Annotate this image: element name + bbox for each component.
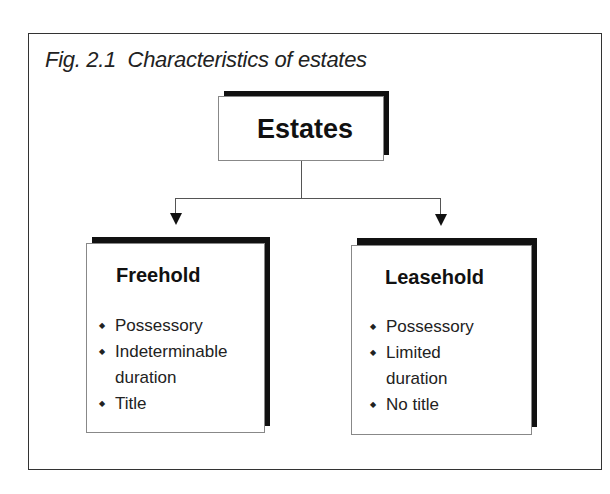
- leasehold-bullet-limited: Limited: [370, 340, 474, 366]
- leasehold-bullet-no-title: No title: [370, 392, 474, 418]
- arrow-down-icon: [435, 214, 447, 226]
- connector-horizontal: [175, 198, 441, 199]
- freehold-box: Freehold Possessory Indeterminable durat…: [86, 243, 265, 433]
- freehold-bullet-indeterminable: Indeterminable: [99, 339, 227, 365]
- freehold-label: Freehold: [116, 264, 200, 287]
- estates-box: Estates: [218, 96, 384, 161]
- leasehold-box: Leasehold Possessory Limited duration No…: [351, 245, 532, 435]
- leasehold-bullet-duration: duration: [370, 366, 474, 392]
- figure-title: Fig. 2.1 Characteristics of estates: [45, 47, 367, 73]
- freehold-bullet-list: Possessory Indeterminable duration Title: [99, 313, 227, 417]
- leasehold-label: Leasehold: [385, 266, 484, 289]
- freehold-bullet-duration: duration: [99, 365, 227, 391]
- connector-trunk: [301, 161, 302, 198]
- arrow-down-icon: [170, 213, 182, 225]
- freehold-bullet-title: Title: [99, 391, 227, 417]
- leasehold-bullet-possessory: Possessory: [370, 314, 474, 340]
- freehold-bullet-possessory: Possessory: [99, 313, 227, 339]
- connector-right-drop: [440, 198, 441, 214]
- leasehold-bullet-list: Possessory Limited duration No title: [370, 314, 474, 418]
- connector-left-drop: [175, 198, 176, 214]
- estates-label: Estates: [257, 114, 353, 145]
